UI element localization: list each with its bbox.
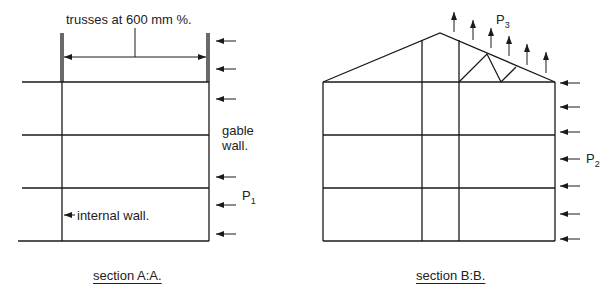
section-a-caption: section A:A.: [93, 268, 162, 283]
load-p1-label: P1: [242, 188, 256, 209]
diagram-canvas: [0, 0, 613, 292]
truss-spacing-label: trusses at 600 mm %.: [66, 12, 192, 27]
section-b-drawing: [323, 12, 580, 241]
load-p3-label: P3: [496, 12, 510, 33]
internal-wall-label: internal wall.: [77, 208, 149, 223]
gable-wall-label-line1: gable: [222, 123, 254, 138]
section-b-caption: section B:B.: [416, 268, 485, 283]
load-p2-label: P2: [586, 151, 600, 172]
section-b-wall-load-arrows: [560, 83, 580, 239]
gable-wall-label-line2: wall.: [222, 138, 248, 153]
